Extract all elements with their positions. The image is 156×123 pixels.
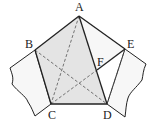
label-B: B bbox=[25, 37, 33, 51]
right-paper-piece bbox=[107, 49, 146, 117]
geometry-figure: A B E F C D bbox=[0, 0, 156, 123]
label-D: D bbox=[103, 108, 112, 122]
figure-canvas: A B E F C D bbox=[0, 0, 156, 123]
label-C: C bbox=[48, 108, 56, 122]
label-E: E bbox=[127, 37, 134, 51]
label-A: A bbox=[75, 0, 84, 14]
label-F: F bbox=[97, 55, 104, 69]
